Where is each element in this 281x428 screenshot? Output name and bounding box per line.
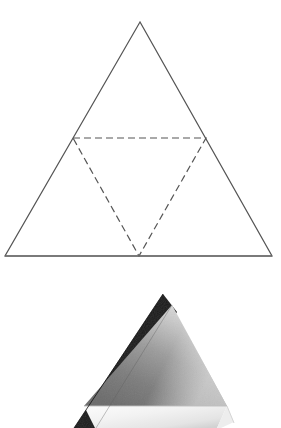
inner-medial-triangle [73, 138, 206, 256]
outer-triangle [5, 22, 272, 256]
pale-base-band [84, 406, 227, 428]
triangle-diagram-figure [0, 0, 281, 280]
tetrahedron-photo-figure [0, 280, 281, 428]
triangle-diagram-svg [0, 0, 281, 280]
page-root: Large equilateral triangle outlined with… [0, 0, 281, 428]
tetrahedron-photo-svg [0, 280, 281, 428]
